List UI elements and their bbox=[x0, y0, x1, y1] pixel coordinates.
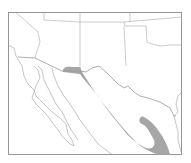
range-map bbox=[0, 0, 191, 163]
